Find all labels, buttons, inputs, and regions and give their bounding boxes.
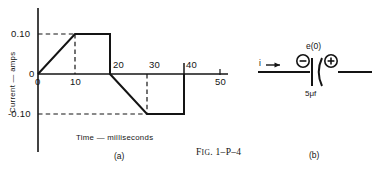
figure-1-p-4: 0.10 0 -0.10 0 10 20 30 40 50 Current — … (0, 0, 384, 175)
x-tick-label-40: 40 (186, 60, 197, 70)
capacitor-plate-curved (319, 58, 322, 86)
panel-b-label: (b) (309, 151, 319, 160)
x-tick-label-50: 50 (215, 77, 226, 87)
x-tick-label-0: 0 (35, 77, 40, 87)
capacitance-label: 5μf (305, 90, 316, 98)
x-tick-label-30: 30 (149, 60, 160, 70)
x-tick-label-20: 20 (113, 60, 124, 70)
y-tick-label-zero: 0 (29, 69, 34, 79)
voltage-label: e(0) (306, 42, 321, 51)
panel-a-label: (a) (114, 152, 124, 161)
figure-vector-layer (0, 0, 384, 175)
y-tick-label-positive: 0.10 (11, 29, 30, 39)
current-arrow-head (275, 62, 281, 67)
x-axis-title: Time — milliseconds (76, 134, 153, 142)
figure-caption-rest: . 1–P–4 (210, 147, 241, 157)
current-label: i (259, 59, 261, 68)
y-axis-title: Current — amps (9, 52, 17, 113)
x-tick-label-10: 10 (70, 77, 81, 87)
figure-caption-smallcaps: IG (202, 148, 211, 157)
figure-caption: FIG. 1–P–4 (196, 148, 241, 158)
